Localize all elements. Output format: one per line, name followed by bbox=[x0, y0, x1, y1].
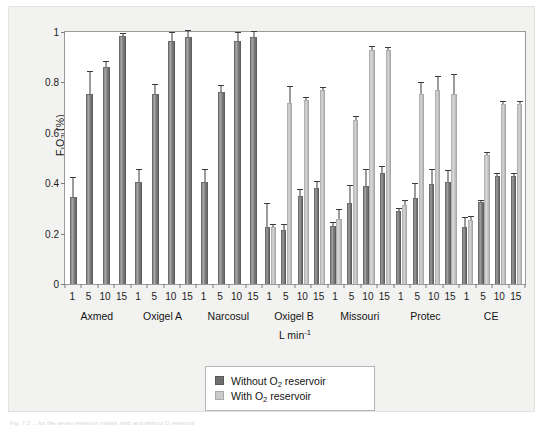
error-bar-cap bbox=[314, 181, 320, 182]
bar-without-reservoir bbox=[185, 37, 192, 284]
x-axis-flow-label: 5 bbox=[152, 291, 158, 302]
x-axis-tick-mark bbox=[180, 284, 181, 288]
error-bar bbox=[267, 203, 268, 227]
error-bar-cap bbox=[451, 74, 457, 75]
error-bar-cap bbox=[336, 209, 342, 210]
x-axis-tick-mark bbox=[245, 284, 246, 288]
bar-without-reservoir bbox=[380, 173, 385, 284]
x-axis-tick-mark bbox=[81, 284, 82, 288]
x-axis-title: L min-1 bbox=[279, 329, 311, 341]
x-axis-group-label-oxigel-a: Oxigel A bbox=[143, 310, 182, 322]
bar-without-reservoir bbox=[445, 182, 450, 284]
error-bar-cap bbox=[330, 222, 336, 223]
error-bar-cap bbox=[379, 166, 385, 167]
x-axis-tick-mark bbox=[278, 284, 279, 288]
error-bar-cap bbox=[218, 85, 224, 86]
plot-frame: 00.20.40.60.81 bbox=[64, 31, 526, 285]
error-bar bbox=[89, 71, 90, 94]
bar-without-reservoir bbox=[250, 37, 257, 284]
x-axis-flow-label: 1 bbox=[267, 291, 273, 302]
bar-without-reservoir bbox=[396, 211, 401, 284]
x-axis-tick-mark bbox=[212, 284, 213, 288]
error-bar-cap bbox=[363, 169, 369, 170]
bar-without-reservoir bbox=[413, 198, 418, 284]
bar-with-reservoir bbox=[336, 219, 341, 284]
error-bar bbox=[300, 189, 301, 196]
x-axis-flow-label: 5 bbox=[217, 291, 223, 302]
bar-without-reservoir bbox=[314, 188, 319, 284]
bar-with-reservoir bbox=[320, 90, 325, 284]
x-axis-flow-label: 15 bbox=[379, 291, 390, 302]
error-bar bbox=[188, 30, 189, 37]
x-axis-tick-mark bbox=[426, 284, 427, 288]
x-axis-flow-label: 5 bbox=[480, 291, 486, 302]
y-axis-tick-label: 0.8 bbox=[45, 77, 59, 88]
x-axis-tick-mark bbox=[525, 284, 526, 288]
legend-swatch-icon-with-reservoir bbox=[215, 391, 224, 400]
x-axis-flow-label: 5 bbox=[283, 291, 289, 302]
bar-without-reservoir bbox=[119, 36, 126, 284]
y-axis-tick-mark bbox=[61, 32, 65, 33]
error-bar-cap bbox=[202, 169, 208, 170]
x-axis-group-label-oxigel-b: Oxigel B bbox=[274, 310, 314, 322]
x-axis-flow-label: 1 bbox=[201, 291, 207, 302]
legend-label-without-reservoir: Without O2 reservoir bbox=[231, 375, 326, 387]
bar-with-reservoir bbox=[402, 205, 407, 284]
error-bar bbox=[237, 32, 238, 41]
bar-with-reservoir bbox=[517, 104, 522, 284]
x-axis-tick-mark bbox=[508, 284, 509, 288]
x-axis-group-label-narcosul: Narcosul bbox=[208, 310, 249, 322]
bar-without-reservoir bbox=[347, 203, 352, 284]
x-axis-tick-mark bbox=[360, 284, 361, 288]
x-axis-group-label-missouri: Missouri bbox=[340, 310, 379, 322]
x-axis-flow-label: 10 bbox=[428, 291, 439, 302]
x-axis-flow-label: 10 bbox=[165, 291, 176, 302]
bar-without-reservoir bbox=[152, 94, 159, 284]
x-axis-flow-label: 10 bbox=[494, 291, 505, 302]
bar-without-reservoir bbox=[462, 227, 467, 284]
x-axis-tick-mark bbox=[410, 284, 411, 288]
error-bar-cap bbox=[87, 71, 93, 72]
error-bar-cap bbox=[235, 32, 241, 33]
x-axis-tick-mark bbox=[295, 284, 296, 288]
bar-without-reservoir bbox=[330, 226, 335, 284]
error-bar-cap bbox=[70, 177, 76, 178]
bar-without-reservoir bbox=[429, 184, 434, 284]
error-bar bbox=[421, 82, 422, 94]
legend-swatch-icon-without-reservoir bbox=[215, 376, 224, 385]
x-axis-tick-mark bbox=[344, 284, 345, 288]
error-bar-cap bbox=[445, 170, 451, 171]
y-axis-tick-mark bbox=[61, 82, 65, 83]
error-bar-cap bbox=[303, 97, 309, 98]
error-bar-cap bbox=[270, 224, 276, 225]
error-bar-cap bbox=[251, 31, 257, 32]
error-bar-cap bbox=[500, 101, 506, 102]
x-axis-flow-label: 15 bbox=[313, 291, 324, 302]
error-bar-cap bbox=[369, 46, 375, 47]
y-axis-tick-mark bbox=[61, 133, 65, 134]
bar-without-reservoir bbox=[135, 182, 142, 284]
bar-with-reservoir bbox=[287, 103, 292, 284]
legend-label-with-reservoir: With O2 reservoir bbox=[231, 390, 311, 402]
error-bar-cap bbox=[185, 30, 191, 31]
error-bar bbox=[204, 169, 205, 182]
error-bar-cap bbox=[429, 169, 435, 170]
x-axis-tick-mark bbox=[196, 284, 197, 288]
error-bar-cap bbox=[402, 200, 408, 201]
x-axis-flow-label: 10 bbox=[100, 291, 111, 302]
error-bar-cap bbox=[494, 173, 500, 174]
x-axis-flow-label: 10 bbox=[362, 291, 373, 302]
x-axis-tick-mark bbox=[147, 284, 148, 288]
bar-with-reservoir bbox=[353, 120, 358, 284]
error-bar bbox=[464, 217, 465, 227]
x-axis-flow-label: 1 bbox=[332, 291, 338, 302]
x-axis-tick-mark bbox=[229, 284, 230, 288]
x-axis-tick-mark bbox=[393, 284, 394, 288]
x-axis-tick-mark bbox=[327, 284, 328, 288]
error-bar-cap bbox=[320, 87, 326, 88]
bar-with-reservoir bbox=[484, 155, 489, 284]
bar-without-reservoir bbox=[70, 197, 77, 284]
legend-item-without-reservoir: Without O2 reservoir bbox=[215, 373, 365, 388]
error-bar-cap bbox=[120, 33, 126, 34]
error-bar-cap bbox=[478, 200, 484, 201]
